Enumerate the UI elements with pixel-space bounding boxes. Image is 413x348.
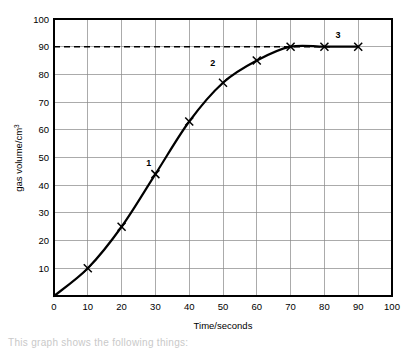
y-tick-label: 30: [38, 207, 49, 218]
x-tick-label: 90: [353, 301, 364, 312]
y-tick-label: 100: [33, 14, 49, 25]
x-tick-label: 50: [218, 301, 229, 312]
y-tick-label: 50: [38, 152, 49, 163]
y-tick-label: 40: [38, 180, 49, 191]
x-tick-label: 0: [51, 301, 56, 312]
x-tick-label: 20: [116, 301, 127, 312]
y-tick-label: 80: [38, 69, 49, 80]
chart-figure: 100 90 80 70 60 50 40 30 20 10 0 10 20 3…: [0, 0, 413, 348]
footer-partial-text: This graph shows the following things:: [8, 337, 188, 348]
y-tick-label: 10: [38, 263, 49, 274]
x-tick-label: 100: [384, 301, 400, 312]
y-axis-tick-labels: 100 90 80 70 60 50 40 30 20 10: [33, 14, 49, 274]
gas-volume-vs-time-chart: 100 90 80 70 60 50 40 30 20 10 0 10 20 3…: [0, 0, 413, 348]
x-tick-label: 40: [184, 301, 195, 312]
annotation-label-2: 2: [210, 58, 215, 68]
y-tick-label: 70: [38, 97, 49, 108]
x-axis-title: Time/seconds: [194, 320, 253, 331]
x-axis-tick-labels: 0 10 20 30 40 50 60 70 80 90 100: [51, 301, 400, 312]
y-tick-label: 20: [38, 235, 49, 246]
svg-text:gas volume/cm3: gas volume/cm3: [13, 124, 24, 192]
y-tick-label: 90: [38, 41, 49, 52]
x-tick-label: 10: [83, 301, 94, 312]
annotation-label-3: 3: [335, 30, 340, 40]
y-axis-title-text: gas volume/cm: [13, 128, 24, 192]
y-axis-title-superscript: 3: [13, 124, 20, 128]
y-tick-label: 60: [38, 124, 49, 135]
x-tick-label: 60: [252, 301, 263, 312]
annotation-label-1: 1: [146, 158, 151, 168]
y-axis-title: gas volume/cm3: [13, 124, 24, 192]
x-tick-label: 70: [285, 301, 296, 312]
x-tick-label: 30: [150, 301, 161, 312]
x-tick-label: 80: [319, 301, 330, 312]
